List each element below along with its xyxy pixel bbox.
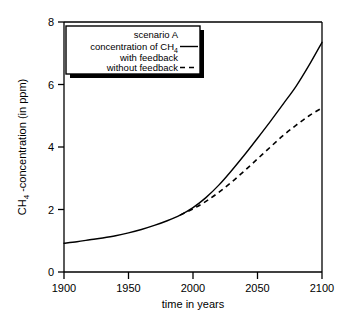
y-tick-label-2: 2	[48, 204, 54, 216]
x-tick-label-1950: 1950	[116, 282, 140, 294]
x-axis-ticks	[64, 272, 322, 279]
x-axis-tick-labels: 1900 1950 2000 2050 2100	[52, 282, 334, 294]
y-tick-label-8: 8	[48, 16, 54, 28]
x-tick-label-1900: 1900	[52, 282, 76, 294]
y-tick-label-4: 4	[48, 141, 54, 153]
line-chart: 0 2 4 6 8 1900 1950 2000 2050 2100 time …	[0, 0, 347, 321]
x-tick-label-2100: 2100	[310, 282, 334, 294]
y-axis-title: CH4 -concentration (in ppm)	[16, 79, 31, 216]
figure-root: 0 2 4 6 8 1900 1950 2000 2050 2100 time …	[0, 0, 347, 321]
x-axis-title: time in years	[162, 298, 225, 310]
x-tick-label-2000: 2000	[181, 282, 205, 294]
svg-text:CH4 -concentration (in ppm): CH4 -concentration (in ppm)	[16, 79, 31, 216]
series-without-feedback-line	[180, 108, 322, 215]
y-axis-title-pre: CH	[16, 199, 28, 215]
y-axis-tick-labels: 0 2 4 6 8	[48, 16, 54, 278]
y-tick-label-6: 6	[48, 79, 54, 91]
y-axis-title-post: -concentration (in ppm)	[16, 79, 28, 195]
y-axis-ticks	[58, 22, 64, 272]
series-with-feedback-line	[64, 42, 322, 243]
y-tick-label-0: 0	[48, 266, 54, 278]
plot-frame	[64, 22, 322, 272]
x-tick-label-2050: 2050	[245, 282, 269, 294]
